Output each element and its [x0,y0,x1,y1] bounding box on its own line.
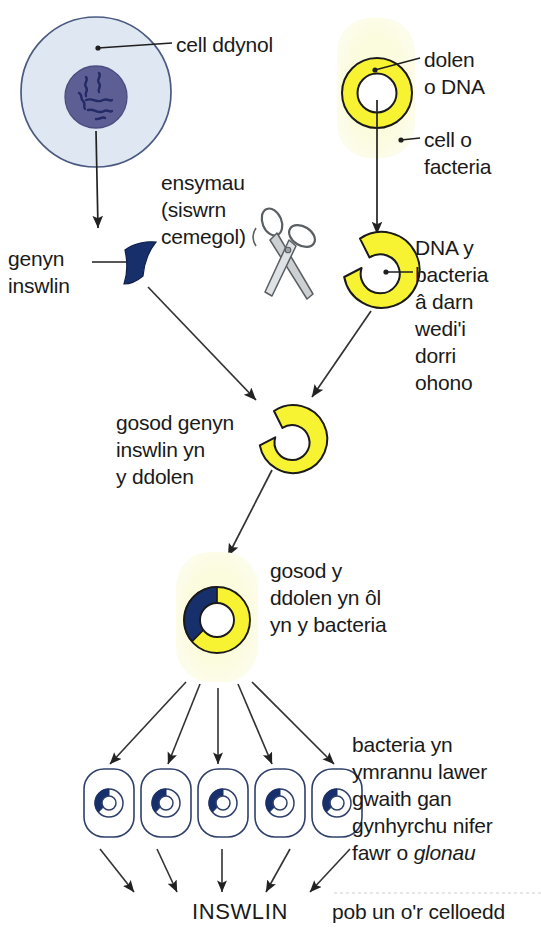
label-gosod-y-ddolen-yn-ol: gosod y ddolen yn ôl yn y bacteria [270,557,386,638]
bacteria-cell-icon [337,18,415,158]
arrow-gene-to-recombination [148,287,256,400]
label-dna-y-bacteria: DNA y bacteria â darn wedi'i dorri ohono [415,234,488,396]
daughter-bacteria-cell-icon [84,769,134,837]
daughter-cells-group [84,769,362,837]
daughter-bacteria-cell-icon [198,769,248,837]
daughter-bacteria-cell-icon [255,769,305,837]
label-gosod-genyn-inswlin: gosod genyn inswlin yn y ddolen [116,409,234,490]
label-ensymau-siswrn-cemegol: ensymau (siswrn cemegol) [161,169,246,250]
recombination-ring-icon [260,405,327,473]
division-arrow-5 [252,682,334,764]
insulin-arrow-5 [310,849,350,892]
insulin-gene-fragment-icon [124,242,156,284]
scissors-icon [253,205,319,299]
label-line-2: ymrannu lawer [352,760,487,783]
label-bacteria-yn-ymrannu: bacteria ynymrannu lawergwaith gangynhyr… [352,731,493,866]
label-dolen-o-dna: dolen o DNA [424,46,485,100]
arrow-recombination-to-bacteria [228,470,272,556]
insulin-output-arrows-group [100,849,350,892]
daughter-bacteria-cell-icon [141,769,191,837]
insulin-arrow-1 [100,849,134,892]
arrow-cutplasmid-to-recombination [312,311,371,397]
label-cell-o-facteria: cell o facteria [424,126,491,180]
insulin-arrow-4 [266,849,290,892]
recombinant-bacteria-cell-icon [176,552,258,682]
label-cell-ddynol: cell ddynol [176,31,273,58]
label-line-1: bacteria yn [352,733,453,756]
cut-plasmid-ring-icon [344,232,419,308]
label-genyn-inswlin: genyn inswlin [8,245,70,299]
insulin-arrow-2 [157,849,177,892]
recombinant-plasmid-icon [184,587,250,653]
label-pob-un-or-celloedd: pob un o'r celloedd [332,898,505,925]
division-arrow-1 [110,682,186,764]
label-line-3: gwaith gan [352,787,452,810]
label-inswlin-output: INSWLIN [192,898,288,925]
label-line-5-emphasis: glonau [414,841,476,864]
label-line-4: gynhyrchu nifer [352,814,493,837]
nucleus-icon [65,66,127,128]
diagram-canvas: cell ddynol dolen o DNA cell o facteria … [0,0,541,939]
division-arrows-group [110,682,334,764]
label-line-5-prefix: fawr o [352,841,414,864]
